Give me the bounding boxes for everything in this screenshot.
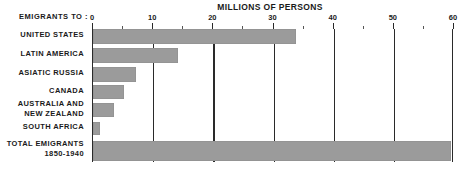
- category-label-line1: SOUTH AFRICA: [23, 122, 84, 131]
- x-tick-label-0: 0: [90, 13, 94, 22]
- category-label-line2: NEW ZEALAND: [0, 109, 84, 119]
- category-label: CANADA: [0, 86, 84, 96]
- x-tick-label-60: 60: [449, 13, 457, 22]
- bar-canada: [93, 85, 124, 99]
- x-tick-mark-60: [453, 23, 454, 29]
- bar-row: [93, 29, 452, 44]
- category-label-line1: ASIATIC RUSSIA: [19, 68, 84, 77]
- category-label-column: UNITED STATESLATIN AMERICAASIATIC RUSSIA…: [0, 29, 88, 162]
- bar-row: [93, 48, 452, 63]
- plot-area: [92, 29, 453, 162]
- category-label-line2: 1850-1940: [0, 149, 84, 159]
- category-label: TOTAL EMIGRANTS1850-1940: [0, 139, 84, 158]
- category-label-line1: CANADA: [49, 86, 84, 95]
- category-label: UNITED STATES: [0, 30, 84, 40]
- x-tick-label-50: 50: [389, 13, 397, 22]
- bar-latin-america: [93, 48, 178, 63]
- category-label: SOUTH AFRICA: [0, 122, 84, 132]
- category-label-line1: LATIN AMERICA: [20, 49, 84, 58]
- bar-row: [93, 103, 452, 117]
- bar-south-africa: [93, 122, 100, 136]
- bar-row: [93, 67, 452, 82]
- category-label-line1: TOTAL EMIGRANTS: [7, 139, 84, 148]
- x-tick-label-40: 40: [328, 13, 336, 22]
- x-tick-label-20: 20: [208, 13, 216, 22]
- category-label: ASIATIC RUSSIA: [0, 68, 84, 78]
- category-label: LATIN AMERICA: [0, 49, 84, 59]
- x-tick-label-10: 10: [148, 13, 156, 22]
- category-label: AUSTRALIA ANDNEW ZEALAND: [0, 99, 84, 118]
- bar-united-states: [93, 29, 296, 44]
- x-tick-label-30: 30: [268, 13, 276, 22]
- bar-australia-and: [93, 103, 114, 117]
- bar-row: [93, 141, 452, 161]
- x-axis: 0102030405060: [0, 0, 467, 24]
- bar-row: [93, 85, 452, 99]
- emigration-bar-chart: MILLIONS OF PERSONS EMIGRANTS TO : 01020…: [0, 0, 467, 171]
- category-label-line1: AUSTRALIA AND: [18, 99, 84, 108]
- bar-total-emigrants: [93, 141, 451, 161]
- category-label-line1: UNITED STATES: [20, 30, 84, 39]
- bar-row: [93, 122, 452, 136]
- bar-asiatic-russia: [93, 67, 136, 82]
